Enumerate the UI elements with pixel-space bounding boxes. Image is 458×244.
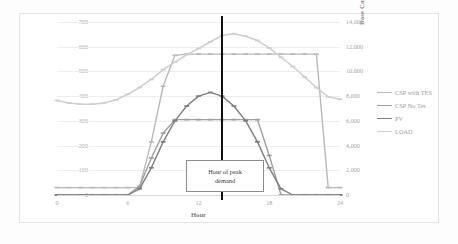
- chart-legend: CSP with TESCSP No TesPVLOAD: [377, 86, 457, 138]
- legend-label: CSP No Tes: [395, 102, 426, 109]
- legend-swatch: [377, 92, 392, 93]
- legend-item-pv[interactable]: PV: [377, 112, 457, 125]
- x-tick: 0: [45, 199, 69, 206]
- y-tick-right: 2,000: [346, 166, 392, 173]
- legend-label: LOAD: [395, 128, 413, 135]
- y-tick-right: 4,000: [346, 142, 392, 149]
- x-axis-title: Hour: [57, 211, 340, 218]
- x-tick: 6: [116, 199, 140, 206]
- chart-figure: CSP Output (MW) Base Case Net Load Hour …: [0, 0, 458, 244]
- y-tick-right: 12,000: [346, 43, 392, 50]
- peak-demand-callout-text: Hour of peakdemand: [206, 167, 244, 186]
- legend-swatch: [377, 118, 392, 119]
- x-tick: 24: [328, 199, 352, 206]
- x-tick: 18: [257, 199, 281, 206]
- x-tick: 12: [187, 199, 211, 206]
- legend-label: PV: [395, 115, 403, 122]
- x-axis-line: [57, 195, 340, 196]
- legend-swatch: [377, 105, 392, 106]
- y-tick-right: 0: [346, 191, 392, 198]
- callout-line-2: demand: [208, 176, 242, 185]
- legend-label: CSP with TES: [395, 89, 432, 96]
- peak-demand-callout: Hour of peakdemand: [186, 160, 264, 192]
- y-tick-right: 14,000: [346, 18, 392, 25]
- legend-swatch: [377, 131, 392, 132]
- legend-item-csp-no-tes[interactable]: CSP No Tes: [377, 99, 457, 112]
- legend-item-csp-with-tes[interactable]: CSP with TES: [377, 86, 457, 99]
- y-tick-right: 10,000: [346, 67, 392, 74]
- series-line-load: [57, 34, 340, 104]
- legend-item-load[interactable]: LOAD: [377, 125, 457, 138]
- callout-line-1: Hour of peak: [208, 167, 242, 176]
